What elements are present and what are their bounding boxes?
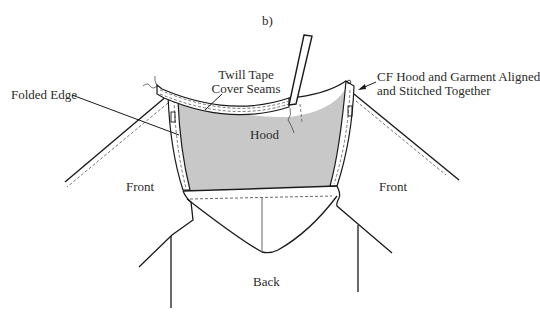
cf-aligned-label-line1: CF Hood and Garment Aligned: [377, 70, 540, 84]
front-right-label: Front: [379, 180, 407, 194]
cf-aligned-label: CF Hood and Garment Aligned and Stitched…: [377, 70, 540, 98]
back-label: Back: [253, 275, 280, 289]
left-front-shoulder: [65, 95, 168, 187]
left-garment-lower: [139, 191, 193, 308]
cf-arrow: [358, 82, 376, 90]
cf-aligned-label-line2: and Stitched Together: [377, 84, 540, 98]
right-garment-lower: [337, 186, 392, 292]
twill-tape-label: Twill Tape Cover Seams: [196, 68, 296, 96]
panel-label: b): [262, 14, 273, 28]
back-neckline: [187, 196, 337, 253]
folded-edge-leader: [72, 95, 179, 135]
twill-tape-label-line2: Cover Seams: [196, 82, 296, 96]
right-front-shoulder: [354, 94, 459, 180]
hood-label: Hood: [250, 128, 279, 142]
front-left-label: Front: [126, 180, 154, 194]
twill-tape-label-line1: Twill Tape: [196, 68, 296, 82]
folded-edge-label: Folded Edge: [11, 88, 77, 102]
